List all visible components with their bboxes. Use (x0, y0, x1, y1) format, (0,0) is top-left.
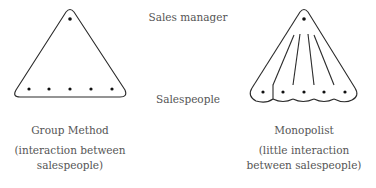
sales-manager-label: Sales manager (148, 11, 228, 23)
monopolist-caption: Monopolist (little interaction between s… (244, 123, 364, 173)
monopolist-subtitle-1: (little interaction (244, 143, 364, 158)
group-method-subtitle-1: (interaction between (10, 143, 130, 158)
salespeople-dots-left (27, 87, 113, 90)
sales-manager-dot-left (68, 17, 72, 21)
group-method-title: Group Method (10, 123, 130, 138)
monopolist-subtitle-2: between salespeople) (244, 158, 364, 173)
group-method-subtitle-2: salespeople) (10, 158, 130, 173)
salespeople-dots-right (261, 90, 346, 93)
salespeople-label: Salespeople (148, 93, 228, 105)
monopolist-title: Monopolist (244, 123, 364, 138)
sales-manager-dot-right (302, 17, 306, 21)
group-method-triangle (15, 10, 126, 98)
group-method-caption: Group Method (interaction between salesp… (10, 123, 130, 173)
monopolist-fan (250, 10, 357, 103)
